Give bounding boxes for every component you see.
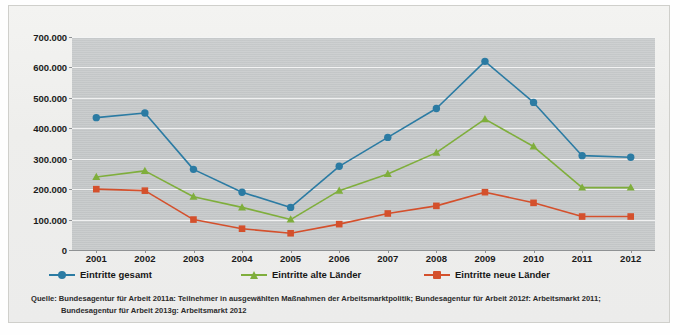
x-axis-tick — [242, 250, 243, 253]
data-point — [433, 105, 440, 112]
legend-label: Eintritte neue Länder — [455, 269, 550, 280]
data-point — [579, 213, 586, 220]
data-point — [142, 187, 149, 194]
y-axis-tick-label: 100.000 — [33, 214, 67, 225]
data-point — [578, 152, 585, 159]
y-axis-tick — [69, 128, 72, 129]
source-line-1: Quelle: Bundesagentur für Arbeit 2011a: … — [31, 293, 656, 305]
y-axis-tick — [69, 250, 72, 251]
x-axis-tick-label: 2008 — [426, 253, 447, 264]
series-1 — [93, 58, 635, 211]
data-point — [93, 186, 100, 193]
x-axis-tick-label: 2009 — [474, 253, 495, 264]
source-note: Quelle: Bundesagentur für Arbeit 2011a: … — [31, 293, 656, 316]
data-point — [336, 163, 343, 170]
y-axis-tick-label: 400.000 — [33, 123, 67, 134]
data-point — [481, 115, 489, 122]
legend-marker-icon — [49, 270, 75, 280]
series-line — [96, 119, 630, 219]
data-point — [384, 210, 391, 217]
legend-item-2[interactable]: Eintritte alte Länder — [241, 269, 361, 280]
y-axis-tick — [69, 37, 72, 38]
data-point — [627, 213, 634, 220]
y-axis-tick — [69, 159, 72, 160]
x-axis-tick-label: 2010 — [523, 253, 544, 264]
data-point — [190, 166, 197, 173]
data-point — [481, 58, 488, 65]
x-axis-tick — [96, 250, 97, 253]
legend-label: Eintritte gesamt — [80, 269, 152, 280]
chart-page: 0100.000200.000300.000400.000500.000600.… — [0, 0, 680, 335]
y-axis-tick-label: 500.000 — [33, 92, 67, 103]
x-axis-tick-label: 2001 — [86, 253, 107, 264]
data-point — [141, 167, 149, 174]
x-axis-tick — [339, 250, 340, 253]
x-axis-tick-label: 2003 — [183, 253, 204, 264]
x-axis-tick-label: 2005 — [280, 253, 301, 264]
x-axis-tick-label: 2012 — [620, 253, 641, 264]
x-axis-tick — [145, 250, 146, 253]
x-axis-tick-label: 2004 — [231, 253, 252, 264]
x-axis-tick — [582, 250, 583, 253]
plot-area — [72, 37, 655, 250]
y-axis-tick — [69, 98, 72, 99]
data-point — [530, 200, 537, 207]
data-point — [482, 189, 489, 196]
data-point — [384, 134, 391, 141]
series-line — [96, 61, 630, 207]
data-point — [530, 142, 538, 149]
data-point — [238, 188, 245, 195]
x-axis-tick — [534, 250, 535, 253]
chart-panel: 0100.000200.000300.000400.000500.000600.… — [8, 5, 670, 323]
data-point — [93, 114, 100, 121]
x-axis-line — [72, 250, 655, 251]
data-point — [190, 216, 197, 223]
y-axis-tick-label: 200.000 — [33, 184, 67, 195]
x-axis-tick-label: 2002 — [134, 253, 155, 264]
legend-marker-icon — [241, 270, 267, 280]
legend-item-1[interactable]: Eintritte gesamt — [49, 269, 152, 280]
x-axis-tick-label: 2006 — [329, 253, 350, 264]
legend-label: Eintritte alte Länder — [272, 269, 361, 280]
data-point — [627, 153, 634, 160]
y-axis-tick-label: 600.000 — [33, 62, 67, 73]
source-line-2: Bundesagentur für Arbeit 2013g: Arbeitsm… — [31, 305, 656, 317]
x-axis-tick — [485, 250, 486, 253]
x-axis-tick — [436, 250, 437, 253]
data-point — [530, 99, 537, 106]
data-point — [433, 203, 440, 210]
data-point — [239, 225, 246, 232]
y-axis-tick-label: 700.000 — [33, 32, 67, 43]
y-axis-tick — [69, 220, 72, 221]
legend-marker-icon — [424, 270, 450, 280]
series-lines — [72, 37, 655, 250]
y-axis-labels: 0100.000200.000300.000400.000500.000600.… — [9, 37, 67, 250]
x-axis-tick — [388, 250, 389, 253]
y-axis-tick-label: 0 — [62, 245, 67, 256]
x-axis-tick — [194, 250, 195, 253]
y-axis-tick-label: 300.000 — [33, 153, 67, 164]
data-point — [432, 148, 440, 155]
x-axis-tick-label: 2007 — [377, 253, 398, 264]
data-point — [287, 230, 294, 237]
series-line — [96, 189, 630, 233]
y-axis-tick — [69, 189, 72, 190]
chart-legend: Eintritte gesamtEintritte alte LänderEin… — [49, 269, 649, 285]
series-2 — [92, 115, 634, 223]
y-axis-tick — [69, 67, 72, 68]
data-point — [336, 221, 343, 228]
series-3 — [93, 186, 634, 237]
x-axis-labels: 2001200220032004200520062007200820092010… — [72, 253, 655, 267]
data-point — [287, 204, 294, 211]
x-axis-tick — [291, 250, 292, 253]
data-point — [141, 109, 148, 116]
legend-item-3[interactable]: Eintritte neue Länder — [424, 269, 550, 280]
x-axis-tick — [631, 250, 632, 253]
x-axis-tick-label: 2011 — [572, 253, 593, 264]
